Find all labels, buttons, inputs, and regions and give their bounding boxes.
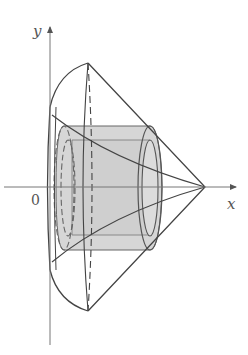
y-axis-label: y <box>32 22 42 40</box>
cylindrical-shell <box>54 126 162 250</box>
origin-label: 0 <box>31 192 40 208</box>
x-axis-label: x <box>227 195 236 213</box>
diagram-canvas: y x 0 <box>0 0 248 355</box>
